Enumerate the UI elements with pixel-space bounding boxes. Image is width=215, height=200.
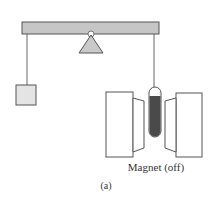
fulcrum-triangle	[79, 35, 103, 53]
magnet-right-block	[176, 93, 202, 157]
sample-fill	[150, 96, 161, 137]
magnet-right-pole	[165, 98, 176, 152]
magnet-left-block	[106, 92, 133, 157]
magnet-left-pole	[133, 98, 144, 152]
figure-caption: (a)	[94, 180, 118, 191]
gouy-balance-diagram: Magnet (off) (a)	[0, 0, 215, 200]
reference-weight	[16, 85, 36, 105]
magnet-label: Magnet (off)	[126, 161, 186, 173]
